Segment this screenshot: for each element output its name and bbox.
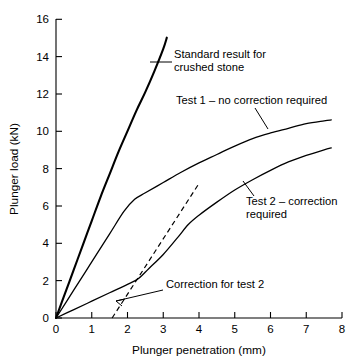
x-tick-label: 4 <box>196 323 203 335</box>
chart-figure: 0 2 4 6 8 10 12 14 16 0 1 2 3 4 5 6 7 8 … <box>0 0 355 364</box>
annotation-correction-for-test-2: Correction for test 2 <box>166 278 264 290</box>
y-tick-label: 0 <box>43 312 49 324</box>
x-tick-label: 5 <box>232 323 238 335</box>
y-tick-label: 8 <box>43 163 49 175</box>
y-tick-label: 14 <box>36 51 49 63</box>
y-tick-marks <box>56 19 62 318</box>
y-tick-label: 4 <box>43 237 50 249</box>
y-axis-title: Plunger load (kN) <box>7 123 21 215</box>
leader-test-2 <box>243 181 254 196</box>
x-tick-label: 1 <box>89 323 95 335</box>
y-tick-label: 12 <box>36 88 49 100</box>
y-tick-labels: 0 2 4 6 8 10 12 14 16 <box>36 13 49 324</box>
y-tick-label: 2 <box>43 275 49 287</box>
curve-correction-for-test-2 <box>112 183 199 318</box>
x-axis-title: Plunger penetration (mm) <box>132 343 266 357</box>
x-tick-label: 7 <box>303 323 309 335</box>
curve-standard-result <box>56 38 167 318</box>
x-tick-label: 3 <box>160 323 166 335</box>
x-tick-labels: 0 1 2 3 4 5 6 7 8 <box>53 323 345 335</box>
y-tick-label: 10 <box>36 125 49 137</box>
annotation-standard-result-line2: crushed stone <box>174 61 244 73</box>
y-tick-label: 16 <box>36 13 49 25</box>
plot-svg: 0 2 4 6 8 10 12 14 16 0 1 2 3 4 5 6 7 8 … <box>0 0 355 364</box>
x-tick-label: 8 <box>339 323 345 335</box>
annotation-test-2-line1: Test 2 – correction <box>246 195 337 207</box>
x-tick-label: 0 <box>53 323 59 335</box>
x-tick-label: 6 <box>267 323 273 335</box>
annotation-standard-result-line1: Standard result for <box>174 48 266 60</box>
annotation-test-1: Test 1 – no correction required <box>176 94 327 106</box>
y-tick-label: 6 <box>43 200 49 212</box>
curve-test-2 <box>56 148 331 318</box>
leader-test-1 <box>255 108 268 129</box>
annotation-test-2-line2: required <box>246 208 287 220</box>
x-tick-label: 2 <box>124 323 130 335</box>
x-tick-marks <box>56 312 342 318</box>
